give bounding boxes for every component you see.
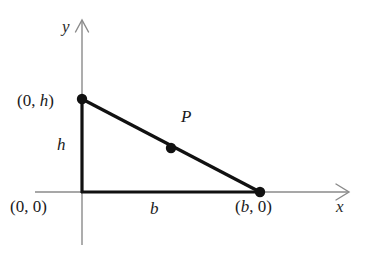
label-vertex-right: (b, 0) <box>235 198 272 215</box>
label-origin: (0, 0) <box>10 198 47 215</box>
label-y-axis: y <box>62 18 70 35</box>
point-b0 <box>255 187 265 197</box>
label-height-length: h <box>57 136 66 153</box>
label-vertex-top: (0, h) <box>17 92 54 109</box>
point-P <box>166 143 176 153</box>
label-x-axis: x <box>336 198 344 215</box>
geometry-figure: (0, h) (0, 0) (b, 0) b h P y x <box>0 0 369 255</box>
label-base-length: b <box>150 200 159 217</box>
diagram-canvas <box>0 0 369 255</box>
label-point-p: P <box>181 108 191 125</box>
axis-arrowheads <box>76 20 350 200</box>
point-0h <box>77 94 87 104</box>
